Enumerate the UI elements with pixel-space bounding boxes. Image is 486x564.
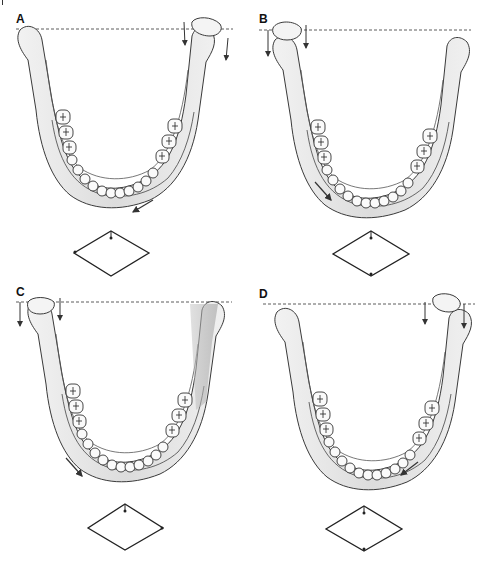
mandible-diagram-c [0, 282, 243, 564]
diamond-indicator [74, 231, 150, 276]
panel-c: C [0, 282, 243, 564]
diamond-indicator [88, 504, 164, 550]
panel-a: A [0, 0, 243, 282]
mandible-diagram-d [243, 282, 486, 564]
arrow-down-icon [184, 22, 185, 45]
mandible-diagram-b [243, 0, 486, 282]
diamond-indicator [333, 231, 409, 276]
diamond-indicator [326, 506, 402, 551]
panel-b: B [243, 0, 486, 282]
panel-d: D [243, 282, 486, 564]
mandible-diagram-a [0, 0, 243, 282]
arrow-down-icon [226, 38, 228, 60]
